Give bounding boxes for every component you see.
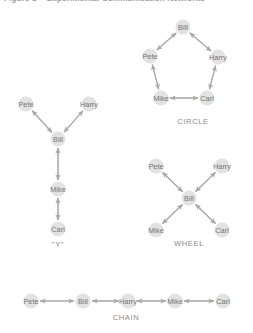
node-chain-carl[interactable]: Carl <box>216 294 231 309</box>
node-label-bill: Bill <box>78 297 88 306</box>
node-label-pete: Pete <box>148 162 163 171</box>
node-label-carl: Carl <box>51 225 65 234</box>
graph-title-circle: CIRCLE <box>177 117 208 126</box>
node-y-carl[interactable]: Carl <box>51 222 66 237</box>
node-wheel-harry[interactable]: Harry <box>213 159 231 174</box>
node-wheel-mike[interactable]: Mike <box>148 223 164 238</box>
node-chain-bill[interactable]: Bill <box>76 294 91 309</box>
graph-nodes-circle: BillPeteHarryMikeCarl <box>142 20 227 106</box>
edge-circle-harry-bill <box>190 33 211 51</box>
node-label-mike: Mike <box>167 297 183 306</box>
edge-y-bill-pete <box>32 111 52 133</box>
node-label-pete: Pete <box>18 100 33 109</box>
node-label-bill: Bill <box>53 135 63 144</box>
edge-y-bill-harry <box>64 111 83 133</box>
node-label-carl: Carl <box>200 94 214 103</box>
network-diagram-canvas: BillPeteHarryMikeCarlPeteHarryBillMikeCa… <box>0 0 253 333</box>
graph-nodes-wheel: PeteHarryBillMikeCarl <box>148 159 231 238</box>
edges-layer <box>32 33 216 301</box>
node-label-mike: Mike <box>50 185 66 194</box>
node-circle-harry[interactable]: Harry <box>209 50 227 65</box>
node-y-mike[interactable]: Mike <box>50 182 66 197</box>
graph-edges-circle <box>152 33 215 98</box>
edge-circle-bill-pete <box>157 33 176 50</box>
edge-wheel-harry-bill <box>195 172 215 191</box>
node-label-harry: Harry <box>213 162 231 171</box>
node-circle-mike[interactable]: Mike <box>153 91 169 106</box>
node-label-harry: Harry <box>80 100 98 109</box>
node-label-harry: Harry <box>119 297 137 306</box>
node-label-harry: Harry <box>209 53 227 62</box>
node-y-harry[interactable]: Harry <box>80 97 98 112</box>
edge-wheel-carl-bill <box>195 204 215 223</box>
graph-title-wheel: WHEEL <box>174 239 204 248</box>
node-label-mike: Mike <box>148 226 164 235</box>
node-chain-harry[interactable]: Harry <box>119 294 137 309</box>
node-wheel-pete[interactable]: Pete <box>148 159 163 174</box>
node-circle-pete[interactable]: Pete <box>142 49 157 64</box>
node-wheel-carl[interactable]: Carl <box>215 223 230 238</box>
figure-root: Figure 1Experimental Communication Netwo… <box>0 0 253 333</box>
node-label-bill: Bill <box>178 23 188 32</box>
node-circle-carl[interactable]: Carl <box>200 91 215 106</box>
edge-wheel-pete-bill <box>162 172 182 191</box>
node-label-pete: Pete <box>142 52 157 61</box>
node-y-pete[interactable]: Pete <box>18 97 33 112</box>
nodes-layer: BillPeteHarryMikeCarlPeteHarryBillMikeCa… <box>18 20 231 309</box>
node-label-mike: Mike <box>153 94 169 103</box>
node-chain-pete[interactable]: Pete <box>23 294 38 309</box>
graph-titles-layer: CIRCLE"Y"WHEELCHAIN <box>52 117 209 322</box>
node-y-bill[interactable]: Bill <box>51 132 66 147</box>
edge-wheel-mike-bill <box>162 204 182 223</box>
node-circle-bill[interactable]: Bill <box>176 20 191 35</box>
graph-title-chain: CHAIN <box>113 313 140 322</box>
edge-circle-mike-pete <box>152 65 158 90</box>
node-wheel-bill[interactable]: Bill <box>182 191 197 206</box>
node-label-carl: Carl <box>216 297 230 306</box>
node-chain-mike[interactable]: Mike <box>167 294 183 309</box>
node-label-bill: Bill <box>184 194 194 203</box>
node-label-pete: Pete <box>23 297 38 306</box>
node-label-carl: Carl <box>215 226 229 235</box>
graph-edges-y <box>32 111 83 220</box>
edge-circle-carl-harry <box>209 66 215 90</box>
graph-title-y: "Y" <box>52 240 64 249</box>
